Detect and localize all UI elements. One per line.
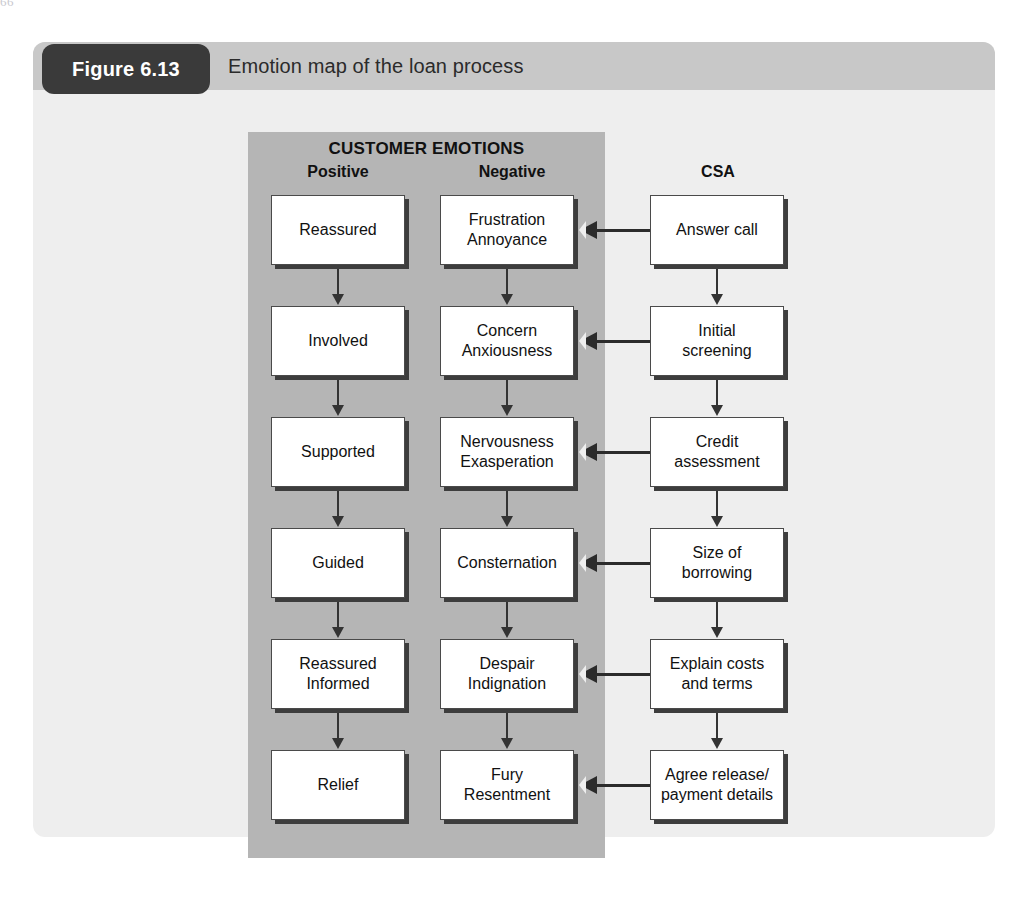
node-label-line: Frustration: [467, 210, 547, 230]
node-label-line: Anxiousness: [462, 341, 553, 361]
arrowhead-down-icon: [332, 627, 344, 638]
arrow-shaft-csa-to-negative-5: [594, 673, 650, 676]
arrowhead-down-icon: [711, 516, 723, 527]
arrowhead-down-icon: [501, 516, 513, 527]
node-label: NervousnessExasperation: [460, 432, 553, 472]
node-label: DespairIndignation: [468, 654, 546, 694]
node-label-line: Exasperation: [460, 452, 553, 472]
arrowhead-notch: [579, 554, 586, 572]
arrow-shaft-csa-to-negative-6: [594, 784, 650, 787]
heading-negative: Negative: [432, 163, 592, 181]
arrow-shaft-csa-to-negative-1: [594, 229, 650, 232]
node-label: Consternation: [457, 553, 557, 573]
connector-csa-3-to-4: [716, 491, 718, 519]
arrowhead-notch: [579, 332, 586, 350]
arrowhead-down-icon: [711, 627, 723, 638]
node-label: Creditassessment: [674, 432, 759, 472]
node-positive-6: Relief: [271, 750, 405, 820]
node-negative-3: NervousnessExasperation: [440, 417, 574, 487]
node-label-line: Reassured: [299, 654, 376, 674]
node-positive-2: Involved: [271, 306, 405, 376]
node-csa-3: Creditassessment: [650, 417, 784, 487]
node-positive-1: Reassured: [271, 195, 405, 265]
node-label: Reassured: [299, 220, 376, 240]
arrowhead-down-icon: [332, 738, 344, 749]
arrowhead-down-icon: [711, 294, 723, 305]
connector-negative-2-to-3: [506, 380, 508, 408]
arrow-shaft-csa-to-negative-3: [594, 451, 650, 454]
connector-positive-3-to-4: [337, 491, 339, 519]
heading-positive: Positive: [258, 163, 418, 181]
node-label-line: Reassured: [299, 220, 376, 240]
node-negative-6: FuryResentment: [440, 750, 574, 820]
node-negative-1: FrustrationAnnoyance: [440, 195, 574, 265]
node-label-line: Size of: [682, 543, 752, 563]
node-label-line: Informed: [299, 674, 376, 694]
connector-positive-1-to-2: [337, 269, 339, 297]
node-label-line: Explain costs: [670, 654, 764, 674]
arrowhead-down-icon: [501, 627, 513, 638]
arrow-shaft-csa-to-negative-4: [594, 562, 650, 565]
node-label-line: assessment: [674, 452, 759, 472]
node-label-line: Fury: [464, 765, 550, 785]
arrowhead-down-icon: [332, 516, 344, 527]
heading-csa: CSA: [650, 163, 786, 181]
node-label: ReassuredInformed: [299, 654, 376, 694]
arrowhead-notch: [579, 776, 586, 794]
arrowhead-notch: [579, 221, 586, 239]
node-negative-4: Consternation: [440, 528, 574, 598]
node-negative-2: ConcernAnxiousness: [440, 306, 574, 376]
arrowhead-down-icon: [711, 738, 723, 749]
node-csa-6: Agree release/payment details: [650, 750, 784, 820]
node-label: Size ofborrowing: [682, 543, 752, 583]
node-label: Explain costsand terms: [670, 654, 764, 694]
node-csa-5: Explain costsand terms: [650, 639, 784, 709]
node-label: Involved: [308, 331, 368, 351]
connector-csa-5-to-6: [716, 713, 718, 741]
node-label-line: Annoyance: [467, 230, 547, 250]
arrowhead-down-icon: [332, 405, 344, 416]
node-csa-1: Answer call: [650, 195, 784, 265]
page-edge-text: 66: [0, 0, 1028, 8]
connector-negative-5-to-6: [506, 713, 508, 741]
arrowhead-down-icon: [501, 294, 513, 305]
node-label: Supported: [301, 442, 375, 462]
node-label-line: Supported: [301, 442, 375, 462]
figure-title: Emotion map of the loan process: [228, 42, 523, 90]
node-negative-5: DespairIndignation: [440, 639, 574, 709]
node-label: Answer call: [676, 220, 758, 240]
node-csa-2: Initialscreening: [650, 306, 784, 376]
node-label: FuryResentment: [464, 765, 550, 805]
node-label-line: and terms: [670, 674, 764, 694]
node-label: Agree release/payment details: [661, 765, 773, 805]
node-label-line: Initial: [682, 321, 751, 341]
node-label-line: Involved: [308, 331, 368, 351]
node-label: Initialscreening: [682, 321, 751, 361]
arrowhead-down-icon: [711, 405, 723, 416]
node-label: Relief: [318, 775, 359, 795]
arrowhead-notch: [579, 665, 586, 683]
node-csa-4: Size ofborrowing: [650, 528, 784, 598]
node-label-line: Indignation: [468, 674, 546, 694]
node-positive-4: Guided: [271, 528, 405, 598]
connector-positive-5-to-6: [337, 713, 339, 741]
arrowhead-down-icon: [332, 294, 344, 305]
node-label-line: Guided: [312, 553, 364, 573]
node-label-line: Consternation: [457, 553, 557, 573]
arrowhead-notch: [579, 443, 586, 461]
connector-negative-4-to-5: [506, 602, 508, 630]
connector-negative-1-to-2: [506, 269, 508, 297]
node-label-line: payment details: [661, 785, 773, 805]
node-label-line: Despair: [468, 654, 546, 674]
node-label-line: Nervousness: [460, 432, 553, 452]
node-label: ConcernAnxiousness: [462, 321, 553, 361]
node-label-line: Relief: [318, 775, 359, 795]
connector-positive-4-to-5: [337, 602, 339, 630]
connector-csa-4-to-5: [716, 602, 718, 630]
node-label-line: Concern: [462, 321, 553, 341]
node-label-line: screening: [682, 341, 751, 361]
connector-negative-3-to-4: [506, 491, 508, 519]
arrowhead-down-icon: [501, 738, 513, 749]
heading-customer-emotions: CUSTOMER EMOTIONS: [248, 139, 605, 159]
connector-positive-2-to-3: [337, 380, 339, 408]
